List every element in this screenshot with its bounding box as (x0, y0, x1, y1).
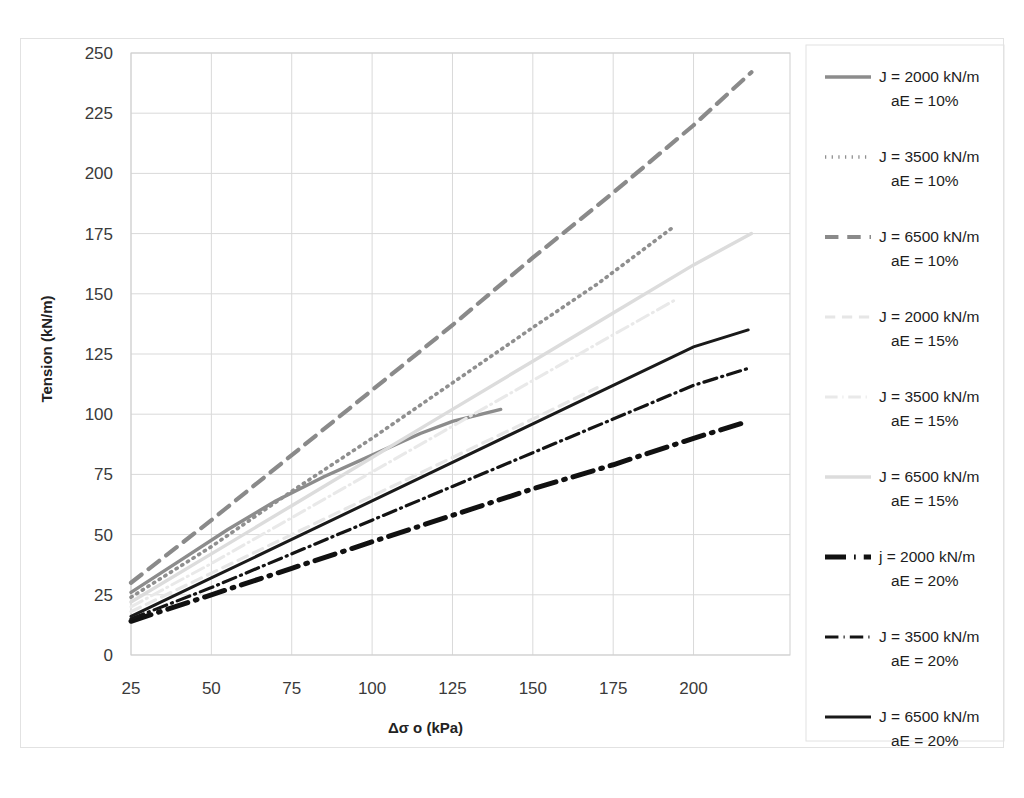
y-tick-label: 100 (85, 405, 113, 424)
x-tick-label: 50 (202, 679, 221, 698)
series-line-1 (131, 229, 671, 597)
y-tick-label: 150 (85, 285, 113, 304)
chart-figure: 255075100125150175200 025507510012515017… (0, 0, 1024, 798)
x-tick-label: 125 (438, 679, 466, 698)
x-tick-label: 200 (679, 679, 707, 698)
y-tick-label: 225 (85, 104, 113, 123)
series-line-4 (131, 299, 677, 607)
x-tick-label: 150 (519, 679, 547, 698)
tension-vs-stress-chart: 255075100125150175200 025507510012515017… (0, 0, 1024, 798)
legend-entry-label-primary: J = 6500 kN/m (879, 228, 979, 245)
y-tick-label: 50 (94, 526, 113, 545)
y-axis-title: Tension (kN/m) (38, 295, 55, 402)
y-tick-label: 125 (85, 345, 113, 364)
legend-entry-label-secondary: aE = 10% (891, 172, 959, 189)
series-lines (131, 72, 751, 621)
series-line-5 (131, 234, 751, 602)
legend-entry-label-primary: J = 2000 kN/m (879, 308, 979, 325)
legend-entry-label-secondary: aE = 10% (891, 252, 959, 269)
series-line-6 (131, 421, 748, 621)
legend-entry-label-secondary: aE = 15% (891, 492, 959, 509)
legend-entry-label-primary: J = 6500 kN/m (879, 708, 979, 725)
legend-entry-label-secondary: aE = 20% (891, 652, 959, 669)
legend-entry-label-secondary: aE = 15% (891, 412, 959, 429)
x-tick-label: 75 (282, 679, 301, 698)
legend-entry-label-primary: j = 2000 kN/m (878, 548, 975, 565)
y-tick-label: 175 (85, 225, 113, 244)
x-tick-label: 100 (358, 679, 386, 698)
x-axis-title: Δσ o (kPa) (388, 719, 463, 736)
legend-entry-label-secondary: aE = 20% (891, 732, 959, 749)
y-tick-label: 250 (85, 44, 113, 63)
series-line-2 (131, 72, 751, 582)
x-tick-label: 25 (122, 679, 141, 698)
x-axis-tick-labels: 255075100125150175200 (122, 679, 708, 698)
legend-entry-label-primary: J = 6500 kN/m (879, 468, 979, 485)
legend-entry-label-secondary: aE = 10% (891, 92, 959, 109)
y-tick-label: 0 (104, 646, 113, 665)
series-line-8 (131, 330, 748, 617)
legend-entry-label-primary: J = 3500 kN/m (879, 628, 979, 645)
legend-entry-label-secondary: aE = 15% (891, 332, 959, 349)
y-tick-label: 200 (85, 164, 113, 183)
series-line-3 (131, 388, 597, 612)
y-tick-label: 75 (94, 465, 113, 484)
legend-entry-label-primary: J = 3500 kN/m (879, 148, 979, 165)
x-tick-label: 175 (599, 679, 627, 698)
series-line-7 (131, 368, 748, 618)
legend-entry-label-secondary: aE = 20% (891, 572, 959, 589)
legend-entry-label-primary: J = 3500 kN/m (879, 388, 979, 405)
legend-entry-label-primary: J = 2000 kN/m (879, 68, 979, 85)
y-axis-tick-labels: 0255075100125150175200225250 (85, 44, 113, 665)
chart-legend: J = 2000 kN/maE = 10%J = 3500 kN/maE = 1… (806, 45, 1004, 749)
y-tick-label: 25 (94, 586, 113, 605)
